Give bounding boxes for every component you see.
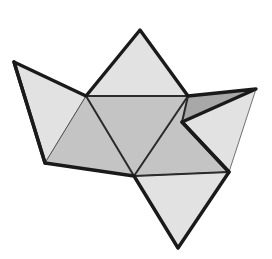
- face-top-apex-triangle: [86, 30, 188, 96]
- figure-canvas: [0, 0, 272, 259]
- polyhedron-net-diagram: [0, 0, 272, 259]
- faces-group: [14, 30, 256, 248]
- face-bottom-apex-triangle: [134, 172, 229, 248]
